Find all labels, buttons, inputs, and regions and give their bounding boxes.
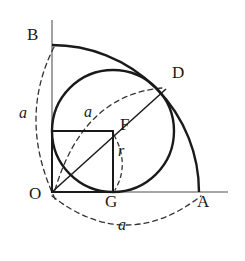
point-label-O: O [29,185,41,202]
length-label-r: r [118,143,124,159]
line-O-to-D [52,89,166,192]
point-label-G: G [105,193,117,210]
length-label-a-inner: a [84,104,92,120]
point-label-A: A [197,193,209,210]
point-label-B: B [27,26,38,43]
length-label-a-left: a [19,105,27,121]
dashed-arc-O-A [52,196,201,225]
length-label-a-bottom: a [118,217,126,233]
geometry-figure: O A B D F G a a r a [0,0,245,261]
point-label-F: F [120,116,129,133]
point-label-D: D [172,64,184,81]
